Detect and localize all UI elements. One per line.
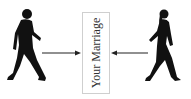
woman-walking-icon <box>145 10 181 82</box>
arrow-left-icon <box>111 51 148 56</box>
arrow-right-icon <box>42 51 81 56</box>
marriage-label: Your Marriage <box>89 18 104 88</box>
marriage-box: Your Marriage <box>82 12 110 94</box>
man-walking-icon <box>7 9 46 81</box>
